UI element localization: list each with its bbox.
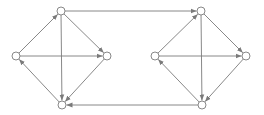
- edge-R_right-to-R_bottom: [205, 59, 243, 102]
- node-R_left: [151, 52, 159, 60]
- edges-layer: [19, 11, 243, 105]
- node-R_top: [197, 7, 205, 15]
- edge-L_right-to-L_bottom: [65, 59, 104, 102]
- node-R_right: [242, 52, 250, 60]
- node-L_right: [103, 52, 111, 60]
- edge-L_bottom-to-L_left: [19, 59, 59, 102]
- nodes-layer: [12, 7, 250, 109]
- edge-R_bottom-to-R_left: [158, 59, 199, 102]
- edge-L_top-to-L_right: [64, 14, 104, 53]
- node-R_bottom: [198, 101, 206, 109]
- edge-R_top-to-R_bottom: [201, 15, 202, 101]
- edge-R_top-to-R_right: [204, 14, 243, 53]
- node-L_bottom: [58, 101, 66, 109]
- node-L_left: [12, 52, 20, 60]
- edge-L_left-to-L_top: [19, 14, 58, 53]
- node-L_top: [57, 7, 65, 15]
- edge-L_top-to-L_bottom: [61, 15, 62, 101]
- directed-graph-diagram: [0, 0, 264, 115]
- edge-R_left-to-R_top: [158, 14, 198, 53]
